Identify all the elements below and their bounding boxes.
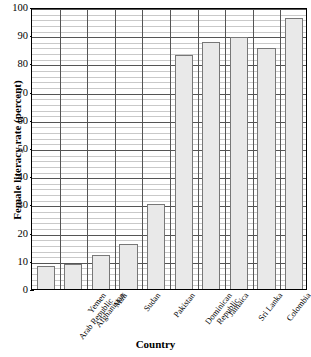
bar [119, 244, 137, 289]
y-tick-label: 50 [18, 144, 29, 155]
bar [64, 264, 82, 289]
x-tick-label-line: Sudan [141, 290, 162, 313]
x-axis-title: Country [0, 338, 311, 350]
bar [257, 48, 275, 289]
y-tick-label: 30 [18, 200, 29, 211]
x-axis-tick-labels: YemenArab RepublicAfghanistanMaliSudanPa… [31, 291, 307, 339]
bar-chart: Female literacy rate (percent) 010203040… [0, 0, 311, 357]
y-tick-label: 100 [12, 3, 28, 14]
x-tick-label: Sudan [142, 291, 162, 313]
y-tick-label: 90 [18, 31, 29, 42]
bar [147, 204, 165, 289]
x-tick-label: Colombia [285, 291, 311, 323]
y-tick-label: 20 [18, 228, 29, 239]
bar [37, 266, 55, 289]
x-tick-label-line: Sri Lanka [256, 290, 284, 322]
bar [230, 37, 248, 289]
y-tick-label: 10 [18, 257, 29, 268]
bar [92, 255, 110, 289]
y-tick-label: 80 [18, 59, 29, 70]
y-axis-ticks: 0102030405060708090100 [0, 8, 30, 290]
x-tick-label: Sri Lanka [257, 291, 285, 323]
plot-area [31, 8, 307, 290]
x-tick-label-line: Pakistan [172, 290, 198, 319]
y-tick-label: 70 [18, 87, 29, 98]
y-tick-label: 60 [18, 116, 29, 127]
bar [175, 55, 193, 289]
bar [202, 42, 220, 289]
bars-container [32, 9, 306, 289]
y-tick-label: 40 [18, 172, 29, 183]
bar [285, 18, 303, 289]
x-tick-label: Pakistan [172, 291, 197, 319]
x-tick-label-line: Colombia [284, 290, 311, 323]
y-tick-label: 0 [23, 285, 28, 296]
